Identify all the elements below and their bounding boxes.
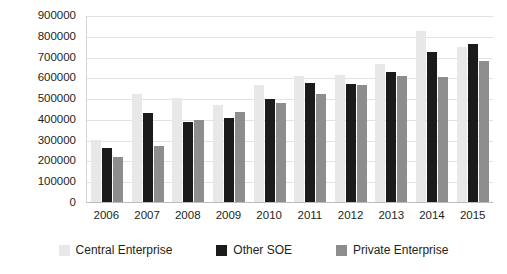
x-axis: 2006200720082009201020112012201320142015 <box>86 205 493 225</box>
bar <box>416 31 426 202</box>
bar <box>294 76 304 202</box>
x-axis-tick-label: 2015 <box>452 205 493 225</box>
legend-label: Other SOE <box>233 244 292 256</box>
legend-swatch-icon <box>336 245 347 256</box>
bar <box>335 75 345 202</box>
bar-group-2009 <box>209 16 250 202</box>
bar <box>397 76 407 202</box>
x-axis-tick-label: 2013 <box>371 205 412 225</box>
bar-group-2012 <box>331 16 372 202</box>
chart-legend: Central EnterpriseOther SOEPrivate Enter… <box>0 238 507 262</box>
bar <box>386 72 396 202</box>
bar <box>194 120 204 202</box>
bar <box>305 83 315 202</box>
bar <box>213 105 223 202</box>
bar <box>457 47 467 202</box>
bar <box>427 52 437 202</box>
x-axis-tick-label: 2011 <box>290 205 331 225</box>
legend-item[interactable]: Other SOE <box>216 244 292 256</box>
bar <box>132 94 142 202</box>
bar-group-2014 <box>412 16 453 202</box>
bar <box>143 113 153 202</box>
y-axis-tick-label: 900000 <box>38 10 76 22</box>
x-axis-tick-label: 2014 <box>412 205 453 225</box>
bar-groups <box>87 16 493 202</box>
y-axis-tick-label: 700000 <box>38 52 76 64</box>
y-axis: 9000008000007000006000005000004000003000… <box>0 0 84 210</box>
plot-area <box>86 16 493 203</box>
bar <box>316 94 326 202</box>
bar-group-2010 <box>249 16 290 202</box>
x-axis-tick-label: 2012 <box>330 205 371 225</box>
bar-chart: 9000008000007000006000005000004000003000… <box>0 0 507 274</box>
bar <box>479 61 489 202</box>
y-axis-tick-label: 300000 <box>38 135 76 147</box>
x-axis-tick-label: 2007 <box>127 205 168 225</box>
y-axis-tick-label: 500000 <box>38 93 76 105</box>
legend-swatch-icon <box>216 245 227 256</box>
bar <box>183 122 193 202</box>
x-axis-tick-label: 2010 <box>249 205 290 225</box>
bar <box>375 64 385 202</box>
y-axis-tick-label: 0 <box>70 197 76 209</box>
bar <box>468 44 478 202</box>
bar-group-2015 <box>452 16 493 202</box>
y-axis-tick-label: 200000 <box>38 156 76 168</box>
bar <box>357 85 367 202</box>
bar <box>91 140 101 202</box>
x-axis-tick-label: 2008 <box>167 205 208 225</box>
bar <box>102 148 112 202</box>
y-axis-tick-label: 100000 <box>38 176 76 188</box>
bar <box>438 77 448 202</box>
y-axis-tick-label: 600000 <box>38 73 76 85</box>
bar-group-2011 <box>290 16 331 202</box>
bar <box>172 98 182 202</box>
legend-label: Central Enterprise <box>76 244 173 256</box>
bar <box>224 118 234 202</box>
x-axis-tick-label: 2006 <box>86 205 127 225</box>
bar-group-2008 <box>168 16 209 202</box>
bar <box>346 84 356 202</box>
legend-swatch-icon <box>59 245 70 256</box>
bar <box>265 99 275 202</box>
bar <box>235 112 245 202</box>
bar-group-2013 <box>371 16 412 202</box>
plot-wrapper: 9000008000007000006000005000004000003000… <box>0 0 507 228</box>
bar-group-2006 <box>87 16 128 202</box>
bar <box>154 146 164 202</box>
y-axis-tick-label: 800000 <box>38 31 76 43</box>
legend-item[interactable]: Central Enterprise <box>59 244 173 256</box>
y-axis-tick-label: 400000 <box>38 114 76 126</box>
bar <box>254 85 264 202</box>
bar <box>113 157 123 202</box>
legend-label: Private Enterprise <box>353 244 448 256</box>
bar <box>276 103 286 202</box>
legend-item[interactable]: Private Enterprise <box>336 244 448 256</box>
x-axis-tick-label: 2009 <box>208 205 249 225</box>
bar-group-2007 <box>128 16 169 202</box>
